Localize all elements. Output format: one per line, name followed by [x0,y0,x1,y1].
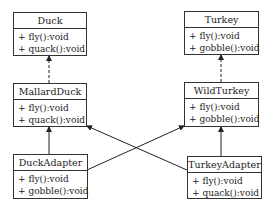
class-name: TurkeyAdapter [188,157,261,173]
class-name: Duck [14,13,86,29]
class-name: WildTurkey [185,83,258,99]
operation: + gobble():void [189,113,258,125]
class-name: DuckAdapter [14,155,87,171]
operation: + fly():void [18,173,87,185]
operation: + fly():void [189,30,258,42]
operations: + fly():void + quack():void [188,173,261,199]
operation: + quack():void [18,43,86,55]
class-wildturkey: WildTurkey + fly():void + gobble():void [184,82,259,127]
uml-class-diagram: Duck + fly():void + quack():void Turkey … [0,0,271,212]
operation: + gobble():void [18,185,87,197]
operation: + fly():void [192,175,261,187]
class-turkey: Turkey + fly():void + gobble():void [184,11,259,55]
operation: + quack():void [192,187,261,199]
operation: + quack():void [18,114,86,126]
operations: + fly():void + quack():void [14,29,86,55]
operation: + fly():void [18,31,86,43]
operation: + gobble():void [189,42,258,54]
class-name: MallardDuck [14,84,86,100]
operations: + fly():void + gobble():void [185,28,258,54]
operations: + fly():void + gobble():void [14,171,87,197]
class-name: Turkey [185,12,258,28]
operation: + fly():void [18,102,86,114]
class-duckadapter: DuckAdapter + fly():void + gobble():void [13,154,88,199]
class-turkeyadapter: TurkeyAdapter + fly():void + quack():voi… [187,156,262,199]
operations: + fly():void + quack():void [14,100,86,126]
class-mallardduck: MallardDuck + fly():void + quack():void [13,83,87,127]
operation: + fly():void [189,101,258,113]
class-duck: Duck + fly():void + quack():void [13,12,87,56]
operations: + fly():void + gobble():void [185,99,258,125]
